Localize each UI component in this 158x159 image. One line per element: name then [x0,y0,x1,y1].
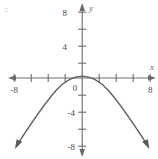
y-tick-label-4: 4 [63,42,68,52]
x-tick-label-8: 8 [148,85,153,95]
y-axis-name-label: y [88,3,93,13]
parabola-graph-figure: y x 8 4 -4 -8 -8 8 0 [0,0,158,159]
origin-label: 0 [73,83,78,93]
x-tick-label-neg8: -8 [10,85,18,95]
coordinate-plane-svg: y x 8 4 -4 -8 -8 8 0 [0,0,158,159]
y-tick-label-neg8: -8 [68,142,76,152]
x-axis-name-label: x [149,62,154,72]
y-tick-label-neg4: -4 [68,108,76,118]
y-tick-label-8: 8 [63,8,68,18]
